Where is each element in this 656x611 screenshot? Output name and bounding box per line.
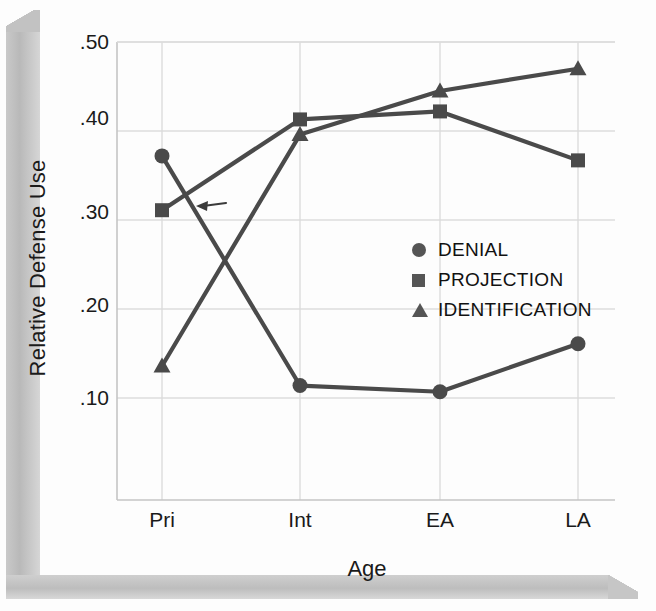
legend-label: IDENTIFICATION [438, 299, 592, 321]
chart-legend: DENIAL PROJECTION IDENTIFICATION [412, 237, 592, 327]
square-icon [412, 274, 438, 287]
legend-item-denial: DENIAL [412, 237, 592, 263]
legend-item-projection: PROJECTION [412, 267, 592, 293]
legend-label: DENIAL [438, 239, 508, 261]
legend-label: PROJECTION [438, 269, 563, 291]
circle-icon [412, 243, 438, 257]
triangle-icon [412, 303, 438, 317]
legend-item-identification: IDENTIFICATION [412, 297, 592, 323]
annotation-layer [196, 201, 226, 211]
data-series-layer [154, 60, 587, 399]
chart-figure: Relative Defense Use Age .10 .20 .30 .40… [0, 0, 656, 611]
